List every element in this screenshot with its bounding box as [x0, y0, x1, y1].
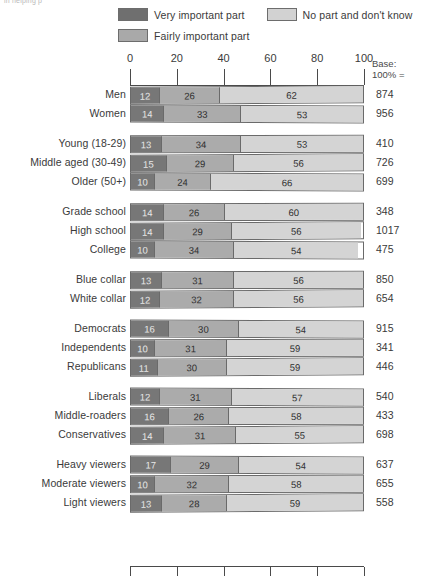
chart-row: Light viewers132859558	[0, 494, 426, 513]
bar-segment-fairly: 33	[163, 106, 240, 122]
bar-segment-nopart: 54	[238, 457, 363, 474]
base-value: 915	[376, 322, 394, 334]
chart-row: Heavy viewers172954637	[0, 456, 426, 475]
bar-segment-nopart: 53	[240, 136, 363, 152]
row-label: Republicans	[0, 360, 126, 372]
chart-row: Liberals123157540	[0, 388, 426, 407]
row-label: Liberals	[0, 390, 126, 402]
bar-segment-fairly: 26	[159, 87, 219, 103]
bar-segment-nopart: 58	[228, 408, 363, 424]
base-value: 348	[376, 205, 394, 217]
stacked-bar: 123256	[130, 289, 364, 308]
bar-segment-nopart: 54	[238, 321, 363, 338]
chart-row: Middle aged (30-49)152956726	[0, 154, 426, 173]
chart-row: White collar123256654	[0, 290, 426, 309]
base-value: 726	[376, 156, 394, 168]
bar-segment-very: 12	[131, 388, 159, 404]
chart-row: Blue collar133156850	[0, 271, 426, 290]
bar-segment-very: 12	[131, 292, 159, 308]
bar-segment-very: 11	[131, 360, 157, 376]
bar-segment-nopart: 59	[226, 340, 363, 356]
chart-page: in helping p Very important part No part…	[0, 0, 426, 587]
bar-segment-fairly: 26	[168, 408, 228, 424]
base-value: 874	[376, 88, 394, 100]
bar-segment-very: 16	[131, 408, 168, 424]
bar-segment-fairly: 31	[163, 427, 235, 443]
bar-segment-very: 10	[131, 340, 154, 356]
base-value: 654	[376, 292, 394, 304]
bar-segment-very: 13	[131, 136, 161, 152]
chart-row: Women143353956	[0, 105, 426, 124]
chart-row: Republicans113059446	[0, 358, 426, 377]
bar-segment-fairly: 29	[166, 155, 233, 171]
chart-row: Grade school142660348	[0, 203, 426, 222]
chart-row: Men122662874	[0, 86, 426, 105]
bar-segment-nopart: 56	[233, 272, 363, 288]
base-value: 475	[376, 243, 394, 255]
bar-segment-nopart: 58	[228, 476, 363, 492]
base-value: 341	[376, 341, 394, 353]
bar-segment-fairly: 34	[161, 136, 240, 152]
stacked-bar: 152956	[130, 153, 364, 172]
base-value: 850	[376, 273, 394, 285]
stacked-bar: 103454	[130, 240, 364, 259]
bar-segment-nopart: 60	[224, 204, 363, 220]
bar-segment-fairly: 34	[154, 242, 233, 258]
bar-segment-fairly: 31	[159, 389, 231, 405]
bar-segment-nopart: 56	[231, 222, 361, 239]
bar-segment-fairly: 24	[154, 174, 210, 190]
bar-segment-fairly: 31	[154, 340, 226, 356]
stacked-bar: 143155	[130, 425, 364, 444]
base-value: 699	[376, 175, 394, 187]
stacked-bar: 132859	[130, 493, 364, 512]
bar-segment-fairly: 26	[163, 204, 223, 220]
stacked-bar: 103258	[130, 475, 364, 494]
row-label: Older (50+)	[0, 175, 126, 187]
stacked-bar: 172954	[130, 455, 364, 474]
bar-segment-very: 13	[131, 272, 161, 288]
row-label: Women	[0, 107, 126, 119]
row-label: Light viewers	[0, 496, 126, 508]
row-label: Grade school	[0, 205, 126, 217]
stacked-bar: 142660	[130, 203, 364, 222]
bar-segment-nopart: 62	[219, 86, 363, 103]
base-value: 655	[376, 477, 394, 489]
bar-segment-fairly: 29	[170, 457, 237, 473]
row-label: Middle aged (30-49)	[0, 156, 126, 168]
base-value: 446	[376, 360, 394, 372]
stacked-bar: 133156	[130, 271, 364, 290]
chart-rows: Men122662874Women143353956Young (18-29)1…	[0, 0, 426, 587]
row-label: Conservatives	[0, 428, 126, 440]
stacked-bar: 102466	[130, 172, 364, 191]
row-label: White collar	[0, 292, 126, 304]
chart-row: Democrats163054915	[0, 320, 426, 339]
row-label: Democrats	[0, 322, 126, 334]
bar-segment-fairly: 28	[161, 495, 226, 511]
bar-segment-very: 17	[131, 456, 170, 472]
chart-row: College103454475	[0, 241, 426, 260]
bar-segment-nopart: 56	[233, 290, 363, 307]
base-value: 410	[376, 137, 394, 149]
bar-segment-very: 14	[131, 105, 163, 121]
bar-segment-nopart: 55	[235, 426, 363, 443]
row-label: College	[0, 243, 126, 255]
bar-segment-nopart: 57	[231, 389, 363, 406]
base-value: 637	[376, 458, 394, 470]
bar-segment-fairly: 32	[154, 476, 228, 492]
bar-segment-nopart: 53	[240, 106, 363, 123]
chart-row: Moderate viewers103258655	[0, 475, 426, 494]
base-value: 558	[376, 496, 394, 508]
bar-segment-fairly: 29	[163, 223, 230, 239]
row-label: Heavy viewers	[0, 458, 126, 470]
row-label: Young (18-29)	[0, 137, 126, 149]
base-value: 1017	[376, 224, 399, 236]
bar-segment-very: 13	[131, 496, 161, 512]
base-value: 698	[376, 428, 394, 440]
bar-segment-nopart: 54	[233, 242, 358, 259]
stacked-bar: 103159	[130, 339, 364, 358]
stacked-bar: 133453	[130, 135, 364, 154]
bar-segment-very: 10	[131, 241, 154, 257]
stacked-bar: 162658	[130, 407, 364, 426]
base-value: 540	[376, 390, 394, 402]
bar-segment-very: 14	[131, 428, 163, 444]
